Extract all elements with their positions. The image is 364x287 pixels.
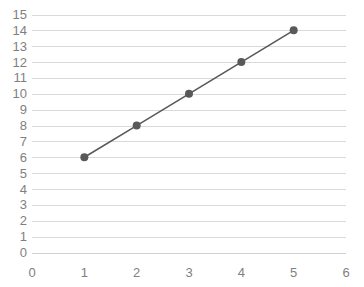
data-point-marker [80, 153, 88, 161]
series-markers [80, 26, 297, 161]
data-point-marker [185, 90, 193, 98]
data-point-marker [133, 122, 141, 130]
line-chart: 0123456789101112131415 0123456 [0, 0, 364, 287]
series-layer [0, 0, 364, 287]
data-point-marker [290, 26, 298, 34]
data-point-marker [237, 58, 245, 66]
